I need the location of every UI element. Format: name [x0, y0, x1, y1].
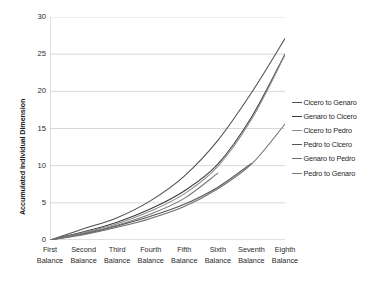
x-label-3: FourthBalance — [138, 245, 164, 266]
y-axis-tick-labels: 302520151050 — [24, 0, 46, 281]
legend-item-3[interactable]: Pedro to Cicero — [292, 138, 378, 152]
line-chart: Accumulated Individual Dimension 3025201… — [0, 0, 378, 281]
legend-label-3: Pedro to Cicero — [304, 140, 352, 149]
data-series-group — [50, 39, 285, 240]
legend-swatch-icon-2 — [292, 130, 302, 131]
x-label-5: SixthBalance — [205, 245, 231, 266]
y-tick-5: 5 — [42, 199, 46, 207]
x-label-0: FirstBalance — [37, 245, 63, 266]
x-label-4: FifthBalance — [171, 245, 197, 266]
plot-area — [50, 17, 285, 240]
legend-item-5[interactable]: Pedro to Genaro — [292, 166, 378, 180]
series-line-0 — [50, 39, 285, 240]
plot-svg — [50, 17, 285, 240]
legend-item-1[interactable]: Genaro to Cicero — [292, 109, 378, 123]
legend-label-2: Cicero to Pedro — [304, 126, 352, 135]
series-line-1 — [50, 54, 285, 240]
legend-swatch-icon-5 — [292, 173, 302, 174]
legend-swatch-icon-0 — [292, 102, 302, 103]
x-label-1: SecondBalance — [70, 245, 96, 266]
y-tick-25: 25 — [38, 50, 46, 58]
series-line-2 — [50, 55, 285, 240]
legend-swatch-icon-4 — [292, 158, 302, 159]
legend-label-5: Pedro to Genaro — [304, 169, 356, 178]
y-tick-30: 30 — [38, 13, 46, 21]
legend-label-0: Cicero to Genaro — [304, 98, 357, 107]
x-label-7: EighthBalance — [272, 245, 298, 266]
x-axis-labels: FirstBalanceSecondBalanceThirdBalanceFou… — [50, 243, 285, 279]
y-tick-15: 15 — [38, 125, 46, 133]
y-tick-10: 10 — [38, 162, 46, 170]
x-label-6: SeventhBalance — [238, 245, 265, 266]
legend-item-4[interactable]: Genaro to Pedro — [292, 152, 378, 166]
series-line-3 — [50, 163, 251, 240]
legend-item-2[interactable]: Cicero to Pedro — [292, 123, 378, 137]
legend-item-0[interactable]: Cicero to Genaro — [292, 95, 378, 109]
legend-swatch-icon-1 — [292, 116, 302, 117]
legend-label-1: Genaro to Cicero — [304, 112, 357, 121]
series-line-5 — [50, 173, 218, 240]
series-line-4 — [50, 124, 285, 240]
legend-label-4: Genaro to Pedro — [304, 154, 356, 163]
x-label-2: ThirdBalance — [104, 245, 130, 266]
legend-swatch-icon-3 — [292, 144, 302, 145]
chart-legend: Cicero to GenaroGenaro to CiceroCicero t… — [292, 95, 378, 180]
y-tick-20: 20 — [38, 87, 46, 95]
y-tick-0: 0 — [42, 236, 46, 244]
